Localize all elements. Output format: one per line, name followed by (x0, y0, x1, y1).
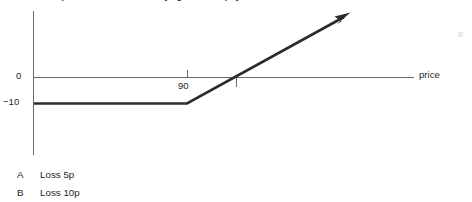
answer-option-b-text: Loss 10p (40, 184, 80, 202)
payoff-chart-svg (0, 0, 472, 165)
answer-options-list: A Loss 5p B Loss 10p (0, 166, 472, 202)
scan-artifact-speck (458, 32, 463, 37)
answer-option-a-letter: A (17, 166, 24, 184)
answer-option-b[interactable]: B Loss 10p (0, 184, 472, 202)
payoff-diagram: 0 −10 90 price (0, 0, 472, 165)
y-axis-tick-label-minus-ten: −10 (3, 96, 19, 107)
y-axis-tick-label-zero: 0 (16, 70, 21, 81)
answer-option-a-text: Loss 5p (40, 166, 74, 184)
answer-option-a[interactable]: A Loss 5p (0, 166, 472, 184)
answer-option-b-letter: B (17, 184, 24, 202)
x-axis-tick-label-strike: 90 (178, 80, 189, 91)
payoff-line-arrowhead (335, 13, 351, 25)
x-axis-title: price (419, 69, 440, 80)
payoff-line (34, 17, 344, 104)
